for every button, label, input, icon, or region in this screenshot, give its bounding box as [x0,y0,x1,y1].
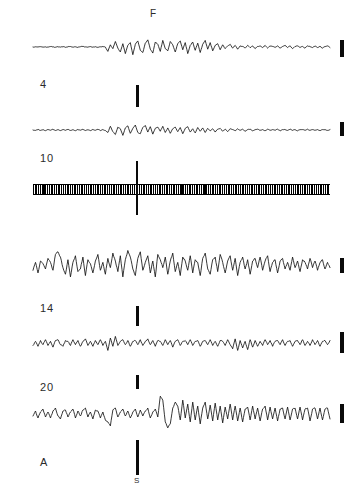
waveform-trace-A [33,396,330,428]
waveform-trace-20 [33,336,330,350]
stimulus-label: S [134,476,140,485]
calibration-bar [340,258,344,273]
compressed-trace-band [33,184,330,195]
trace-label-14: 14 [40,302,54,314]
waveform-figure: F S 4 10 14 20 A [0,0,358,501]
calibration-bar [340,40,344,57]
stimulus-marker-bar [136,306,139,326]
waveform-trace-10 [33,125,330,135]
stimulus-marker-bar [136,440,139,475]
waveform-traces [0,0,358,501]
trace-label-10: 10 [40,152,54,164]
trace-label-4: 4 [40,78,47,90]
calibration-bar [340,404,344,423]
calibration-bar [340,122,344,136]
waveform-trace-4 [33,40,330,55]
trace-label-a: A [40,456,48,468]
top-marker-label: F [150,8,157,19]
stimulus-marker-bar [136,85,139,107]
calibration-bar [340,332,344,353]
waveform-trace-14 [33,250,330,276]
band-crossing-marker [136,161,138,215]
trace-label-20: 20 [40,381,54,393]
stimulus-marker-bar [136,375,139,389]
